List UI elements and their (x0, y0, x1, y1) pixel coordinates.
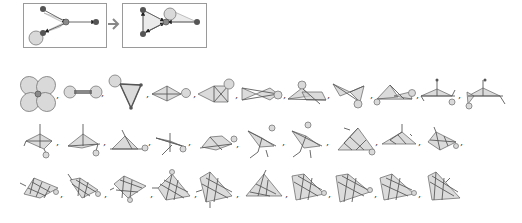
node (140, 31, 146, 37)
graph-step-17 (248, 125, 276, 158)
graph-step-24 (110, 176, 146, 203)
separator: , (328, 188, 331, 199)
separator: , (416, 89, 419, 100)
sequence-row-3: , , , , (20, 170, 460, 209)
separator: , (148, 136, 151, 147)
node (40, 30, 46, 36)
graph-step-2 (64, 86, 102, 98)
graph-step-31 (428, 172, 460, 200)
separator: , (188, 136, 191, 147)
separator: , (282, 136, 285, 147)
sequence-row-2: , , , , (24, 122, 463, 158)
graph-step-13 (68, 124, 100, 156)
separator: , (103, 136, 106, 147)
separator: , (104, 188, 107, 199)
graph-step-7 (288, 81, 326, 104)
hub-node (63, 19, 69, 25)
graph-step-9 (374, 85, 416, 105)
hub-node (163, 19, 169, 25)
graph-step-10 (421, 79, 455, 106)
graph-step-14 (110, 130, 148, 151)
graph-step-29 (336, 174, 373, 202)
node (40, 6, 46, 12)
graph-step-27 (246, 170, 282, 196)
separator: , (235, 89, 238, 100)
self-loop (164, 8, 176, 20)
separator: , (101, 87, 104, 98)
graph-step-4 (152, 86, 191, 101)
rule-left-graph (24, 4, 107, 48)
graph-step-1 (17, 73, 60, 116)
graph-step-26 (196, 172, 232, 208)
sequence-row-1: , , , (17, 73, 505, 116)
separator: , (236, 188, 239, 199)
rule-right-graph (123, 4, 207, 48)
separator: , (283, 89, 286, 100)
graph-step-6 (242, 88, 282, 100)
graph-step-28 (292, 174, 327, 200)
graph-rewrite-diagram: , , , (0, 0, 522, 223)
separator: , (194, 188, 197, 199)
separator: , (60, 188, 63, 199)
graph-step-23 (68, 174, 101, 198)
separator: , (56, 136, 59, 147)
graph-step-30 (380, 174, 417, 200)
separator: , (374, 188, 377, 199)
separator: , (370, 89, 373, 100)
graph-step-19 (338, 128, 375, 155)
diagram-canvas: , , , (0, 0, 522, 223)
graph-step-20 (382, 124, 416, 144)
graph-step-8 (333, 84, 364, 108)
separator: , (56, 89, 59, 100)
separator: , (193, 88, 196, 99)
separator: , (375, 136, 378, 147)
graph-step-11 (466, 79, 505, 110)
separator: , (418, 188, 421, 199)
graph-step-25 (152, 170, 190, 201)
graph-step-16 (200, 136, 237, 150)
graph-step-5 (198, 79, 234, 102)
separator: , (458, 89, 461, 100)
separator: , (326, 136, 329, 147)
separator: , (236, 138, 239, 149)
graph-step-15 (156, 133, 186, 155)
separator: , (418, 136, 421, 147)
graph-step-18 (292, 122, 322, 158)
node (194, 19, 200, 25)
graph-step-22 (20, 178, 59, 198)
rewrite-arrow (108, 19, 118, 29)
graph-step-21 (428, 127, 459, 150)
graph-step-12 (24, 124, 52, 158)
right-frame (123, 4, 207, 48)
separator: , (146, 88, 149, 99)
separator: , (150, 188, 153, 199)
node (140, 7, 146, 13)
node (93, 19, 99, 25)
separator: , (285, 188, 288, 199)
separator: , (327, 89, 330, 100)
separator: , (460, 136, 463, 147)
graph-step-3 (109, 75, 143, 110)
